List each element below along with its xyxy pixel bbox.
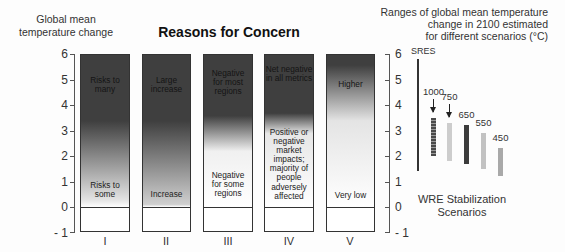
left-tick-label: 6 [40,47,68,61]
zero-line [81,207,129,208]
bar-bottom-text: Risks to some [81,181,129,199]
wre-range-bar [447,123,452,161]
right-tick-label: 4 [395,98,415,112]
reason-bar-ii: Large increase Increase [142,54,191,232]
bar-top-text: Risks to many [81,76,129,94]
reason-bar-iii: Negative for most regions Negative for s… [203,54,253,232]
reason-bar-i: Risks to many Risks to some [80,54,130,232]
left-tick [70,105,74,106]
wre-range-bar [498,148,503,176]
left-tick-label: 0 [40,200,68,214]
sres-label: SRES [411,46,436,56]
right-tick [385,131,389,132]
reasons-for-concern-figure: Global mean temperature change Reasons f… [0,0,565,252]
category-label-i: I [90,235,120,247]
right-tick [385,54,389,55]
left-tick-label: 4 [40,98,68,112]
zero-line [327,207,374,208]
bar-top-text: Higher [327,80,374,89]
left-tick [70,232,74,233]
left-tick [70,54,74,55]
right-tick [385,207,389,208]
down-arrow-icon [449,104,450,117]
bar-bottom-text: Positive or negative market impacts; maj… [265,128,313,201]
bar-top-text: Negative for most regions [204,69,252,96]
left-tick-label: - 1 [40,226,68,240]
right-tick-label: 2 [395,149,415,163]
category-label-iv: IV [274,235,304,247]
right-y-axis [389,54,390,233]
y-axis-title: Global mean temperature change [0,13,132,39]
reason-bar-v: Higher Very low [326,54,375,232]
zero-line [204,207,252,208]
bar-bottom-text: Negative for some regions [204,171,252,198]
left-tick [70,80,74,81]
zero-line [143,207,190,208]
left-tick [70,156,74,157]
chart-title: Reasons for Concern [150,24,308,40]
left-tick-label: 3 [40,124,68,138]
bar-gradient [327,55,374,207]
bar-bottom-text: Very low [327,191,374,200]
left-tick [70,131,74,132]
right-tick-label: 3 [395,124,415,138]
zero-line [265,207,313,208]
category-label-ii: II [151,235,181,247]
wre-label: 550 [469,117,499,128]
right-tick [385,156,389,157]
right-tick [385,182,389,183]
category-label-iii: III [213,235,243,247]
left-tick [70,182,74,183]
wre-scenarios-label: WRE Stabilization Scenarios [400,193,524,219]
right-tick [385,80,389,81]
right-tick-label: - 1 [395,226,415,240]
left-tick [70,207,74,208]
bar-top-text: Large increase [143,76,190,94]
left-tick-label: 2 [40,149,68,163]
wre-range-bar [431,118,436,156]
scenarios-panel-title: Ranges of global mean temperature change… [380,6,548,42]
wre-range-bar [464,125,469,163]
left-tick-label: 1 [40,175,68,189]
wre-label: 450 [486,132,516,143]
bar-bottom-text: Increase [143,190,190,199]
category-label-v: V [335,235,365,247]
right-tick-label: 5 [395,73,415,87]
left-y-axis [74,54,75,233]
right-tick [385,232,389,233]
right-tick-label: 1 [395,175,415,189]
sres-range-line [417,59,419,171]
reason-bar-iv: Net negative in all metrics Positive or … [264,54,314,232]
wre-label: 750 [435,91,465,102]
right-tick [385,105,389,106]
left-tick-label: 5 [40,73,68,87]
bar-top-text: Net negative in all metrics [265,65,313,83]
